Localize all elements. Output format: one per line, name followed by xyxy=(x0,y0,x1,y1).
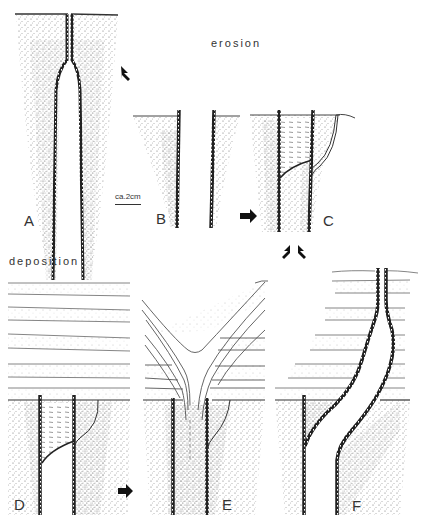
panel-label-a: A xyxy=(24,213,34,228)
panel-label-f: F xyxy=(352,498,361,513)
panel-e-drawing xyxy=(142,280,268,515)
erosion-heading: erosion xyxy=(211,38,261,49)
panel-a-drawing xyxy=(15,14,118,280)
panel-label-d: D xyxy=(14,497,25,512)
scale-bar-label: ca.2cm xyxy=(115,193,141,201)
scale-bar: ca.2cm xyxy=(114,193,143,207)
panel-d-drawing xyxy=(8,283,130,515)
panel-label-b: B xyxy=(156,211,166,226)
panel-f-drawing xyxy=(275,268,418,515)
arrow-c-to-f-icon xyxy=(298,245,306,259)
scale-bar-line xyxy=(115,204,141,205)
arrow-c-to-d-icon xyxy=(282,245,290,259)
panel-label-c: C xyxy=(323,213,334,228)
panel-c-drawing xyxy=(250,110,355,232)
panel-label-e: E xyxy=(222,497,232,512)
arrow-a-to-b-icon xyxy=(121,66,130,81)
deposition-heading: deposition xyxy=(9,256,79,267)
arrow-b-to-c-icon xyxy=(240,209,257,223)
panel-b-drawing xyxy=(133,110,240,228)
diagram-canvas: erosion deposition ca.2cm A B C D E F xyxy=(0,0,429,528)
